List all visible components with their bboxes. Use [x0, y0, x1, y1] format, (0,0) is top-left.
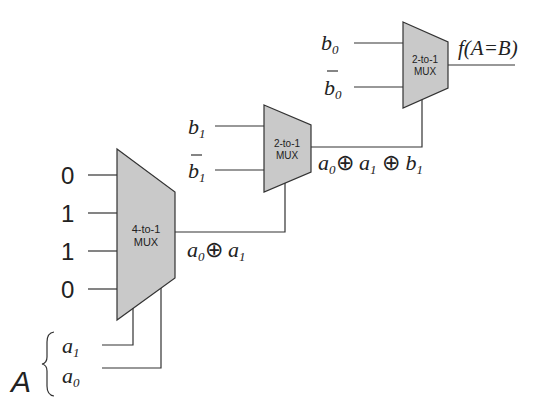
mux-middle: 2-to-1 MUX b1 b1 — [188, 105, 311, 192]
mux-middle-label-1: 2-to-1 — [274, 138, 301, 149]
label-b1-bar: b1 — [188, 158, 206, 185]
signal-label-a0-xor-a1: a0⊕ a1 — [187, 237, 246, 264]
brace-icon — [42, 332, 54, 396]
mux-top-body — [403, 22, 448, 108]
input-value-3: 0 — [61, 276, 74, 303]
mux-4to1-label-1: 4-to-1 — [132, 223, 161, 235]
mux-4to1: 4-to-1 MUX 0 1 1 0 — [61, 149, 175, 320]
mux-top-label-2: MUX — [414, 66, 437, 77]
output-label: f(A=B) — [458, 36, 518, 60]
label-b0-bar: b0 — [324, 75, 342, 102]
mux-top: 2-to-1 MUX b0 b0 — [321, 22, 448, 108]
mux-diagram: 4-to-1 MUX 0 1 1 0 A a1 a0 a0⊕ a1 2-to-1… — [0, 0, 547, 419]
input-value-2: 1 — [61, 238, 74, 265]
input-group-label: A — [9, 365, 31, 398]
label-b1: b1 — [188, 114, 206, 141]
select-label-a1: a1 — [62, 333, 80, 360]
mux-top-label-1: 2-to-1 — [412, 54, 439, 65]
select-label-a0: a0 — [62, 363, 80, 390]
input-value-0: 0 — [61, 162, 74, 189]
signal-label-a0-xor-a1-xor-b1: a0⊕ a1 ⊕ b1 — [318, 150, 423, 177]
label-b0: b0 — [321, 30, 339, 57]
mux-4to1-label-2: MUX — [134, 236, 159, 248]
input-value-1: 1 — [61, 200, 74, 227]
mux-middle-label-2: MUX — [276, 150, 299, 161]
diagram-svg: 4-to-1 MUX 0 1 1 0 A a1 a0 a0⊕ a1 2-to-1… — [0, 0, 547, 419]
